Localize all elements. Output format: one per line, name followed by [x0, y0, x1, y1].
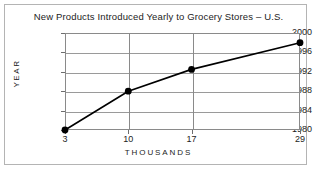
data-point-marker [62, 127, 69, 134]
data-point-marker [297, 39, 304, 46]
series-markers [62, 39, 304, 133]
chart-figure: New Products Introduced Yearly to Grocer… [0, 0, 317, 175]
series-line [65, 43, 300, 130]
data-point-marker [188, 66, 195, 73]
data-series-layer [0, 0, 317, 175]
data-point-marker [125, 88, 132, 95]
